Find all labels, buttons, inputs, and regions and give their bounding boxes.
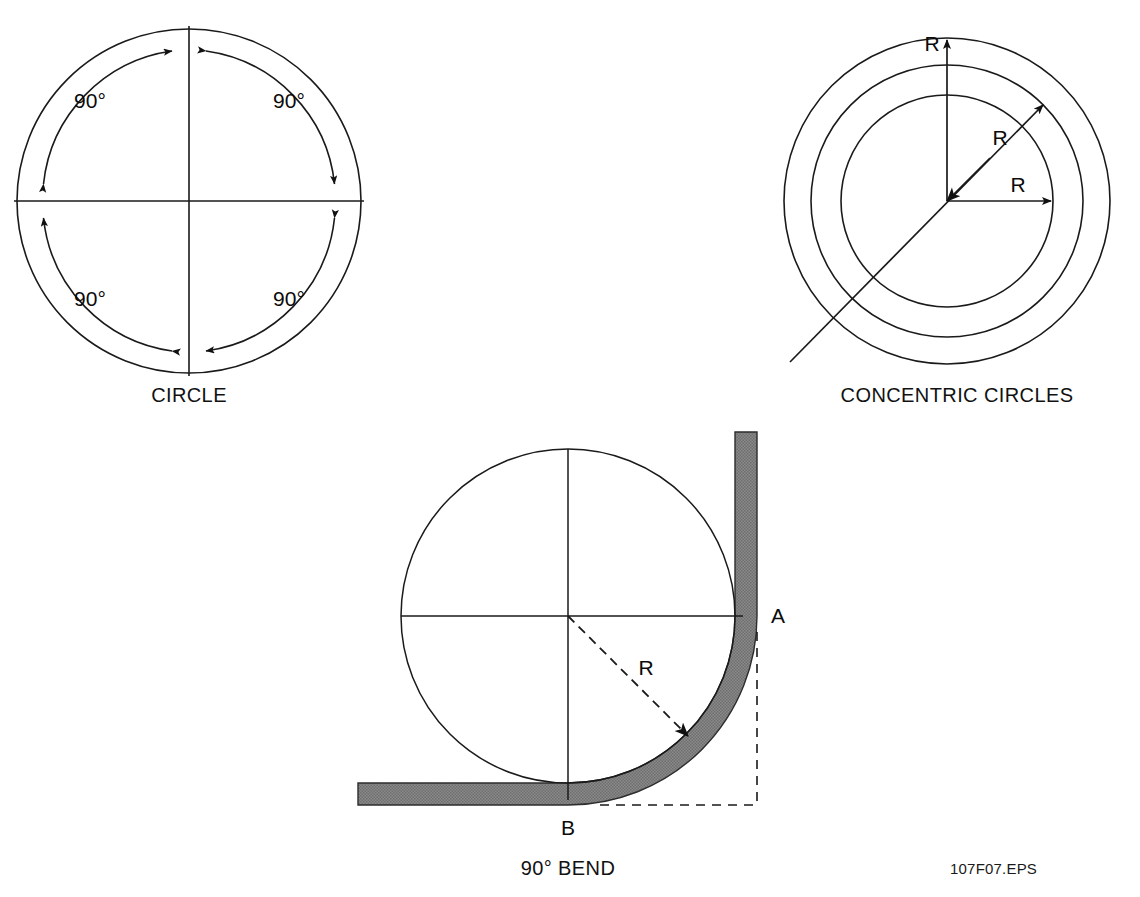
radius-label-diagonal: R xyxy=(992,126,1007,150)
panel-90-degree-bend xyxy=(358,432,757,805)
radius-label-horizontal: R xyxy=(1010,173,1025,197)
quadrant-arc-top-right xyxy=(206,51,335,184)
eps-filename-note: 107F07.EPS xyxy=(950,860,1037,877)
caption-concentric-circles: CONCENTRIC CIRCLES xyxy=(841,384,1074,407)
quadrant-arc-bottom-left xyxy=(44,218,173,351)
bend-radius-label: R xyxy=(638,656,653,680)
point-label-a: A xyxy=(771,604,785,628)
radius-arrow-diagonal-center-head xyxy=(947,158,990,201)
figure-canvas xyxy=(0,0,1140,897)
angle-label-top-left: 90° xyxy=(74,89,106,113)
point-label-b: B xyxy=(561,816,575,840)
quadrant-arc-top-left xyxy=(44,51,173,184)
radius-label-vertical: R xyxy=(924,32,939,56)
figure-root: 90° 90° 90° 90° CIRCLE R R R CONCENTRIC … xyxy=(0,0,1140,897)
angle-label-bottom-right: 90° xyxy=(273,287,305,311)
bend-radius-dashed-arrow xyxy=(568,616,688,736)
quadrant-arc-bottom-right xyxy=(206,218,335,351)
panel-concentric-circles xyxy=(784,38,1110,364)
bend-material-band xyxy=(358,432,757,805)
caption-circle: CIRCLE xyxy=(151,384,227,407)
caption-90-degree-bend: 90° BEND xyxy=(521,857,616,880)
panel-circle xyxy=(14,26,364,376)
angle-label-bottom-left: 90° xyxy=(74,287,106,311)
angle-label-top-right: 90° xyxy=(273,89,305,113)
